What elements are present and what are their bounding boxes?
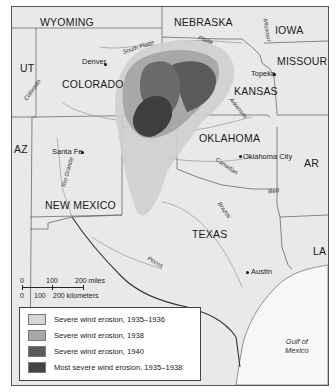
scale-tick bbox=[83, 285, 84, 290]
scale-tick bbox=[22, 285, 23, 290]
city-label-santa-fe: Santa Fe bbox=[52, 147, 82, 156]
city-label-austin: Austin bbox=[251, 267, 272, 276]
state-label-arkansas: AR bbox=[304, 157, 319, 169]
legend-swatch bbox=[28, 346, 46, 357]
legend-label: Severe wind erosion, 1938 bbox=[54, 331, 144, 340]
city-label-denver: Denver bbox=[82, 57, 106, 66]
state-label-texas: TEXAS bbox=[192, 228, 227, 240]
city-dot-denver bbox=[104, 63, 107, 66]
scale-km-0: 0 bbox=[20, 292, 24, 299]
city-dot-santa-fe bbox=[81, 151, 84, 154]
state-label-arizona: AZ bbox=[14, 143, 28, 155]
city-label-oklahoma-city: Oklahoma City bbox=[243, 152, 292, 161]
city-label-topeka: Topeka bbox=[251, 69, 275, 78]
legend-swatch bbox=[28, 330, 46, 341]
gulf-of-mexico bbox=[236, 265, 328, 385]
gulf-label: Gulf of Mexico bbox=[285, 337, 309, 355]
scale-miles-0: 0 bbox=[20, 277, 24, 284]
legend-item-1935-1936: Severe wind erosion, 1935–1936 bbox=[28, 313, 165, 325]
legend-swatch bbox=[28, 362, 46, 373]
state-label-missouri: MISSOURI bbox=[277, 55, 329, 67]
map-frame: WYOMING NEBRASKA IOWA UT COLORADO MISSOU… bbox=[11, 6, 329, 386]
state-label-colorado: COLORADO bbox=[62, 78, 124, 90]
city-dot-oklahoma-city bbox=[239, 155, 242, 158]
state-label-louisiana: LA bbox=[313, 245, 326, 257]
map-legend: Severe wind erosion, 1935–1936 Severe wi… bbox=[19, 307, 201, 381]
legend-label: Severe wind erosion, 1935–1936 bbox=[54, 315, 165, 324]
state-label-wyoming: WYOMING bbox=[40, 16, 94, 28]
legend-label: Most severe wind erosion, 1935–1938 bbox=[54, 363, 182, 372]
erosion-zones bbox=[115, 40, 234, 216]
legend-item-most-severe: Most severe wind erosion, 1935–1938 bbox=[28, 361, 182, 373]
scale-bar: 0 100 200 miles 0 100 200 kilometers bbox=[20, 277, 130, 305]
state-label-oklahoma: OKLAHOMA bbox=[199, 132, 260, 144]
scale-miles-200: 200 miles bbox=[75, 277, 105, 284]
legend-swatch bbox=[28, 314, 46, 325]
legend-item-1940: Severe wind erosion, 1940 bbox=[28, 345, 144, 357]
scale-miles-100: 100 bbox=[46, 277, 58, 284]
gulf-label-line2: Mexico bbox=[285, 346, 309, 355]
gulf-label-line1: Gulf of bbox=[285, 337, 309, 346]
scale-tick bbox=[52, 285, 53, 290]
state-label-utah: UT bbox=[20, 62, 34, 74]
scale-km-100: 100 bbox=[34, 292, 46, 299]
scale-line bbox=[22, 287, 84, 288]
state-label-nebraska: NEBRASKA bbox=[174, 16, 233, 28]
scale-km-200: 200 kilometers bbox=[53, 292, 99, 299]
state-label-kansas: KANSAS bbox=[234, 85, 278, 97]
state-label-new-mexico: NEW MEXICO bbox=[45, 199, 116, 211]
city-dot-austin bbox=[246, 271, 249, 274]
state-label-iowa: IOWA bbox=[275, 24, 303, 36]
city-dot-topeka bbox=[273, 73, 276, 76]
legend-item-1938: Severe wind erosion, 1938 bbox=[28, 329, 144, 341]
legend-label: Severe wind erosion, 1940 bbox=[54, 347, 144, 356]
